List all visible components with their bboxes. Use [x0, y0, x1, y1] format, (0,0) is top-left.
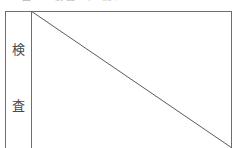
row-label-column: 検 査 [6, 12, 31, 148]
diagonal-line-svg [31, 11, 232, 148]
diagonal-line [31, 11, 232, 148]
plot-area [31, 11, 232, 148]
scanned-figure: 図 1 検査 の 流れ 検 査 [0, 0, 238, 148]
clipped-caption-text: 図 1 検査 の 流れ [22, 0, 172, 3]
row-label-char-2: 査 [12, 98, 25, 113]
row-label-char-1: 検 [12, 42, 25, 57]
